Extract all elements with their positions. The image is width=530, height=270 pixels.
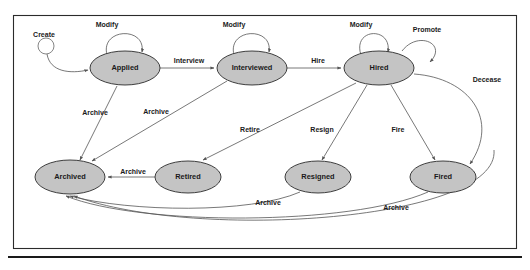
edge-label-hire: Hire bbox=[311, 57, 325, 64]
state-label: Hired bbox=[370, 63, 389, 72]
state-node-applied[interactable]: Applied bbox=[90, 51, 160, 85]
state-node-resigned[interactable]: Resigned bbox=[285, 161, 351, 193]
state-node-retired[interactable]: Retired bbox=[155, 161, 221, 193]
state-label: Archived bbox=[54, 172, 86, 181]
state-diagram: Create Applied Interviewed Hired Archive… bbox=[0, 0, 530, 270]
state-label: Retired bbox=[175, 172, 201, 181]
edge-label-archive-resigned: Archive bbox=[255, 199, 281, 206]
edge-hired-decease bbox=[414, 74, 482, 164]
edge-label-modify-interviewed: Modify bbox=[223, 21, 246, 29]
edge-label-modify-applied: Modify bbox=[96, 21, 119, 29]
state-label: Fired bbox=[434, 172, 453, 181]
state-label: Applied bbox=[111, 63, 139, 72]
diagram-canvas: Create Applied Interviewed Hired Archive… bbox=[0, 0, 530, 270]
edge-hired-resigned bbox=[322, 85, 367, 160]
edge-label-archive-retired: Archive bbox=[120, 168, 146, 175]
state-label: Interviewed bbox=[232, 63, 273, 72]
state-node-archived[interactable]: Archived bbox=[35, 160, 105, 194]
edge-label-archive-interviewed: Archive bbox=[143, 108, 169, 115]
edge-hired-retired bbox=[203, 83, 356, 160]
edge-label-retire: Retire bbox=[240, 126, 260, 133]
state-label: Resigned bbox=[301, 172, 335, 181]
state-node-interviewed[interactable]: Interviewed bbox=[217, 51, 287, 85]
state-node-fired[interactable]: Fired bbox=[410, 161, 476, 193]
edge-label-interview: Interview bbox=[174, 57, 205, 64]
edge-hired-fired bbox=[391, 85, 435, 160]
state-node-hired[interactable]: Hired bbox=[344, 51, 414, 85]
edge-create-applied bbox=[47, 54, 88, 72]
start-node bbox=[38, 38, 54, 54]
state-nodes: Applied Interviewed Hired Archived Retir… bbox=[35, 51, 476, 194]
start-node-label: Create bbox=[33, 31, 55, 38]
diagram-frame bbox=[14, 16, 517, 249]
edge-label-resign: Resign bbox=[310, 126, 333, 134]
edge-label-archive-fired: Archive bbox=[383, 204, 409, 211]
edge-interviewed-archived bbox=[92, 81, 227, 161]
edge-label-modify-hired: Modify bbox=[350, 21, 373, 29]
edge-applied-archived bbox=[80, 86, 117, 160]
edge-label-promote: Promote bbox=[413, 26, 442, 33]
edge-label-archive-applied: Archive bbox=[82, 109, 108, 116]
edge-label-decease: Decease bbox=[473, 76, 502, 83]
edge-label-fire: Fire bbox=[392, 126, 405, 133]
